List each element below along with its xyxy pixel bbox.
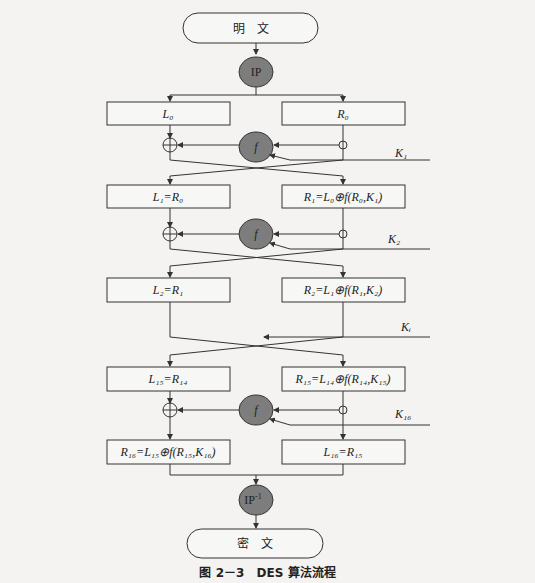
round-left-label: L₀	[162, 107, 174, 121]
key-label: Kᵢ	[400, 320, 411, 334]
key-label: K₂	[387, 232, 400, 246]
key-label: K₁	[394, 146, 407, 160]
round-left-label: L₂=R₁	[152, 283, 183, 297]
round-right-label: R₀	[336, 107, 349, 121]
ip-label: IP	[251, 65, 262, 79]
round-left-label: L₁₅=R₁₄	[148, 372, 188, 386]
key-label: K₁₆	[394, 407, 411, 421]
round-right-label: R₂=L₁⊕f(R₁,K₂)	[303, 283, 382, 297]
round-left-label: R₁₆=L₁₅⊕f(R₁₅,K₁₆)	[119, 445, 215, 459]
round-left-label: L₁=R₀	[152, 190, 183, 204]
ciphertext-label: 密 文	[237, 536, 273, 551]
plaintext-label: 明 文	[233, 21, 269, 36]
round-right-label: R₁₅=L₁₄⊕f(R₁₄,K₁₅)	[294, 372, 390, 386]
figure-title: DES 算法流程	[257, 566, 336, 580]
figure-caption: 图 2－3 DES 算法流程	[0, 563, 535, 580]
round-right-label: R₁=L₀⊕f(R₀,K₁)	[303, 190, 382, 204]
round-right-label: L₁₆=R₁₅	[323, 445, 363, 459]
des-flowchart: 明 文 IP L₀ R₀ f K₁ L₁=R₀ R₁=L₀⊕f(R₀,K₁) f…	[0, 0, 535, 583]
figure-number: 图 2－3	[199, 566, 244, 580]
